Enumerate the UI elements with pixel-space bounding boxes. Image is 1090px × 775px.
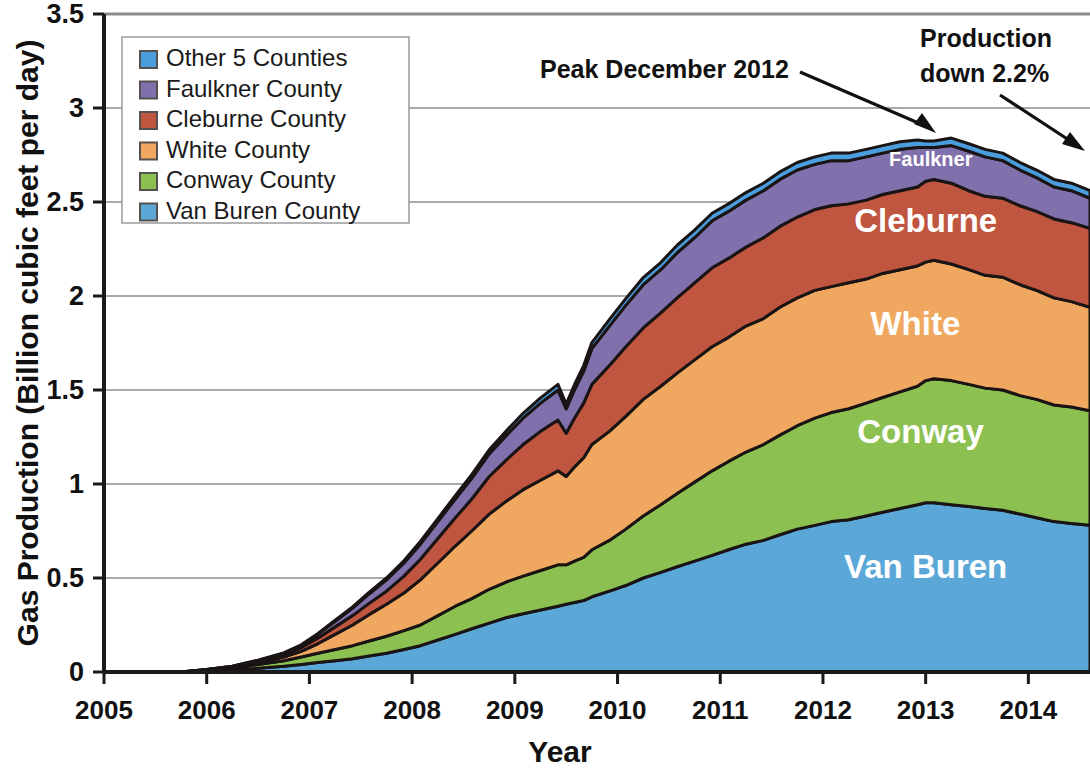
y-tick-label: 2 [69,281,84,311]
legend-item-faulkner-county[interactable]: Faulkner County [140,75,342,102]
annotation-decline-label-line1: Production [920,24,1052,52]
x-tick-label: 2006 [178,695,236,725]
y-tick-label: 3.5 [46,0,84,29]
legend-swatch [140,204,157,221]
y-tick-label: 0 [69,657,84,687]
y-tick-label: 1 [69,469,84,499]
y-tick-label: 2.5 [46,187,84,217]
area-label-van-buren: Van Buren [844,548,1007,585]
x-axis-title: Year [528,735,592,768]
legend-swatch [140,173,157,190]
area-label-cleburne: Cleburne [854,202,997,239]
legend-swatch [140,143,157,160]
legend-item-conway-county[interactable]: Conway County [140,166,335,193]
x-tick-label: 2013 [897,695,955,725]
x-axis-tick-labels: 2005200620072008200920102011201220132014 [75,695,1058,725]
y-tick-label: 3 [69,93,84,123]
legend-label: Cleburne County [166,105,346,132]
legend-swatch [140,112,157,129]
x-tick-label: 2012 [794,695,852,725]
legend-item-white-county[interactable]: White County [140,136,310,163]
y-tick-label: 0.5 [46,563,84,593]
x-tick-label: 2014 [999,695,1057,725]
annotation-peak-label: Peak December 2012 [540,55,789,83]
legend-label: Faulkner County [166,75,342,102]
legend-label: White County [166,136,310,163]
x-tick-label: 2005 [75,695,133,725]
annotation-decline-label-line2: down 2.2% [920,59,1049,87]
chart-container: 00.511.522.533.5 20052006200720082009201… [0,0,1090,775]
x-tick-label: 2011 [692,695,748,725]
x-tick-label: 2007 [280,695,338,725]
y-axis-title: Gas Production (Billion cubic feet per d… [11,40,44,647]
legend-label: Van Buren County [166,197,360,224]
legend-label: Other 5 Counties [166,44,347,71]
y-axis-tick-labels: 00.511.522.533.5 [46,0,84,687]
x-tick-label: 2009 [486,695,544,725]
area-label-white: White [870,305,960,342]
legend[interactable]: Other 5 CountiesFaulkner CountyCleburne … [122,37,409,224]
area-chart: 00.511.522.533.5 20052006200720082009201… [0,0,1090,775]
legend-item-van-buren-county[interactable]: Van Buren County [140,197,360,224]
y-tick-label: 1.5 [46,375,84,405]
x-tick-label: 2008 [383,695,441,725]
legend-swatch [140,51,157,68]
area-label-faulkner: Faulkner [889,148,973,170]
area-label-conway: Conway [857,413,984,450]
x-tick-label: 2010 [589,695,647,725]
legend-label: Conway County [166,166,335,193]
legend-swatch [140,82,157,99]
legend-item-other-5-counties[interactable]: Other 5 Counties [140,44,347,71]
legend-item-cleburne-county[interactable]: Cleburne County [140,105,346,132]
